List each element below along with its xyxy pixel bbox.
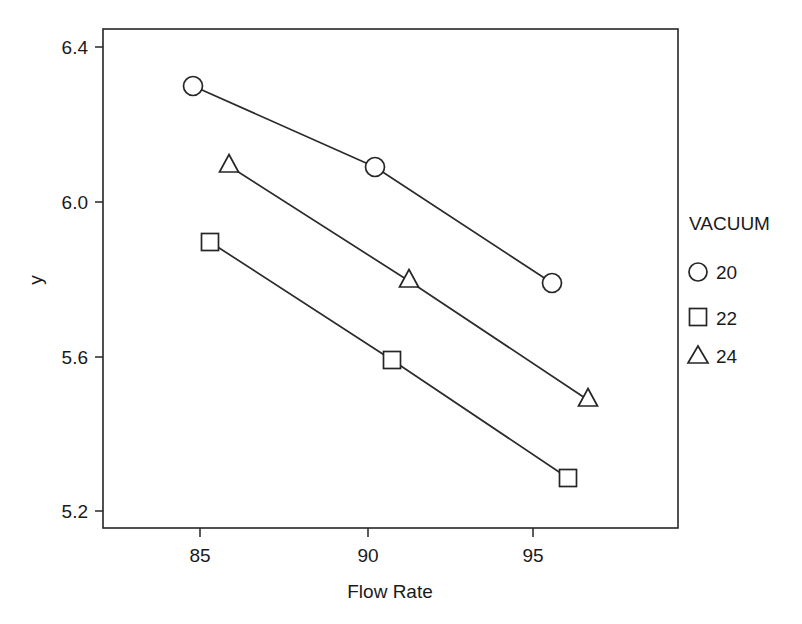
y-tick-label-1: 6.0 — [62, 192, 88, 213]
series-20-point-2 — [543, 274, 562, 293]
series-22-point-2 — [560, 470, 577, 487]
series-20-point-1 — [366, 158, 385, 177]
y-tick-label-3: 5.2 — [62, 501, 88, 522]
plot-frame — [103, 29, 678, 528]
chart-figure: 6.4 6.0 5.6 5.2 85 90 95 Flow Rate y — [0, 0, 802, 624]
series-24-point-0 — [220, 155, 239, 173]
x-axis-tick-labels: 85 90 95 — [189, 545, 543, 566]
series-20-line — [193, 86, 552, 283]
series-22-point-0 — [202, 234, 219, 251]
x-axis-title: Flow Rate — [347, 581, 433, 602]
square-icon — [690, 309, 707, 326]
y-axis-tick-labels: 6.4 6.0 5.6 5.2 — [62, 37, 89, 522]
legend-item-22[interactable]: 22 — [690, 308, 738, 329]
legend: VACUUM 20 22 24 — [688, 213, 770, 367]
series-24-point-2 — [579, 389, 598, 407]
series-20 — [184, 77, 562, 293]
x-tick-label-1: 90 — [357, 545, 378, 566]
y-tick-label-0: 6.4 — [62, 37, 89, 58]
circle-icon — [689, 263, 707, 281]
y-tick-label-2: 5.6 — [62, 347, 88, 368]
triangle-icon — [688, 346, 708, 363]
legend-title: VACUUM — [689, 213, 770, 234]
legend-label-22: 22 — [716, 308, 737, 329]
legend-label-24: 24 — [716, 346, 738, 367]
legend-item-20[interactable]: 20 — [689, 262, 737, 283]
series-22 — [202, 234, 577, 487]
interaction-plot: 6.4 6.0 5.6 5.2 85 90 95 Flow Rate y — [0, 0, 802, 624]
x-tick-label-2: 95 — [522, 545, 543, 566]
legend-label-20: 20 — [716, 262, 737, 283]
series-24-point-1 — [400, 270, 419, 288]
series-20-point-0 — [184, 77, 203, 96]
x-tick-label-0: 85 — [189, 545, 210, 566]
legend-item-24[interactable]: 24 — [688, 346, 738, 367]
x-axis-ticks — [200, 528, 533, 537]
series-22-point-1 — [384, 352, 401, 369]
y-axis-title: y — [25, 275, 46, 285]
series-24 — [220, 155, 598, 407]
y-axis-ticks — [95, 47, 103, 511]
